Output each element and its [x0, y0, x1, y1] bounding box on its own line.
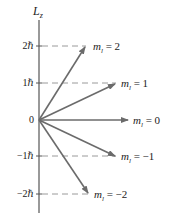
axis-title: Lz	[32, 4, 44, 20]
angular-momentum-diagram: Lz 2ℏ 1ℏ 0 −1ℏ −2ℏ ml = 2 ml = 1 ml = 0 …	[0, 0, 173, 222]
label-ml-neg1: ml = −1	[121, 150, 154, 165]
label-ml-1: ml = 1	[121, 77, 148, 92]
label-ml-neg2: ml = −2	[94, 188, 127, 203]
tick-label-2hbar: 2ℏ	[23, 40, 34, 51]
tick-label-neg1hbar: −1ℏ	[17, 150, 34, 161]
tick-label-1hbar: 1ℏ	[23, 77, 34, 88]
tick-label-neg2hbar: −2ℏ	[17, 188, 34, 199]
tick-label-0: 0	[29, 114, 34, 125]
label-ml-0: ml = 0	[133, 114, 161, 129]
label-ml-2: ml = 2	[93, 40, 120, 55]
